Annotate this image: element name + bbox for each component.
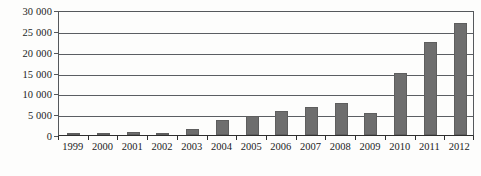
- bar-slot: [89, 133, 119, 135]
- bar-slot: [297, 107, 327, 135]
- x-tick-label: 1999: [62, 141, 83, 152]
- bars-group: [59, 12, 473, 135]
- x-tick-mark: [207, 136, 208, 140]
- bar-slot: [416, 42, 446, 135]
- bar-slot: [386, 73, 416, 135]
- x-tick-mark: [355, 136, 356, 140]
- bar: [186, 129, 199, 135]
- x-tick-mark: [444, 136, 445, 140]
- bar-slot: [208, 120, 238, 135]
- bar: [305, 107, 318, 135]
- x-tick-mark: [177, 136, 178, 140]
- bar: [454, 23, 467, 135]
- bar: [156, 133, 169, 136]
- bar: [246, 116, 259, 135]
- bar: [335, 103, 348, 135]
- y-axis: 05 00010 00015 00020 00025 00030 000: [0, 0, 56, 140]
- x-tick-label: 2001: [122, 141, 143, 152]
- x-tick-label: 2006: [270, 141, 291, 152]
- bar-slot: [445, 23, 475, 135]
- bar: [97, 133, 110, 135]
- bar: [424, 42, 437, 135]
- x-tick-label: 2012: [449, 141, 470, 152]
- x-axis: 1999200020012002200320042005200620072008…: [58, 141, 474, 161]
- y-tick-label: 20 000: [23, 47, 52, 58]
- x-tick-mark: [473, 136, 474, 140]
- bar-chart: 05 00010 00015 00020 00025 00030 000 199…: [0, 0, 481, 176]
- y-tick-label: 30 000: [23, 6, 52, 17]
- x-tick-label: 2009: [360, 141, 381, 152]
- bar-slot: [326, 103, 356, 135]
- bar: [275, 111, 288, 135]
- plot-area: [58, 11, 474, 136]
- y-tick-label: 5 000: [28, 110, 52, 121]
- x-tick-label: 2000: [92, 141, 113, 152]
- x-tick-mark: [296, 136, 297, 140]
- bar: [394, 73, 407, 135]
- x-axis-tick-marks: [58, 136, 474, 140]
- bar-slot: [118, 132, 148, 135]
- bar-slot: [267, 111, 297, 135]
- x-tick-mark: [117, 136, 118, 140]
- x-tick-mark: [266, 136, 267, 140]
- x-tick-mark: [385, 136, 386, 140]
- x-tick-label: 2005: [241, 141, 262, 152]
- bar: [216, 120, 229, 135]
- bar-slot: [59, 133, 89, 135]
- bar-slot: [178, 129, 208, 135]
- x-tick-mark: [236, 136, 237, 140]
- x-tick-mark: [58, 136, 59, 140]
- y-tick-label: 15 000: [23, 68, 52, 79]
- x-tick-label: 2007: [300, 141, 321, 152]
- bar: [364, 113, 377, 135]
- x-tick-label: 2010: [389, 141, 410, 152]
- bar-slot: [356, 113, 386, 135]
- bar: [67, 133, 80, 135]
- x-tick-mark: [147, 136, 148, 140]
- bar-slot: [148, 133, 178, 136]
- y-tick-label: 10 000: [23, 89, 52, 100]
- x-tick-label: 2003: [181, 141, 202, 152]
- x-tick-mark: [415, 136, 416, 140]
- x-tick-mark: [325, 136, 326, 140]
- bar-slot: [237, 116, 267, 135]
- y-tick-label: 25 000: [23, 26, 52, 37]
- x-tick-label: 2004: [211, 141, 232, 152]
- x-tick-mark: [88, 136, 89, 140]
- x-tick-label: 2002: [152, 141, 173, 152]
- bar: [127, 132, 140, 135]
- x-tick-label: 2008: [330, 141, 351, 152]
- x-tick-label: 2011: [419, 141, 440, 152]
